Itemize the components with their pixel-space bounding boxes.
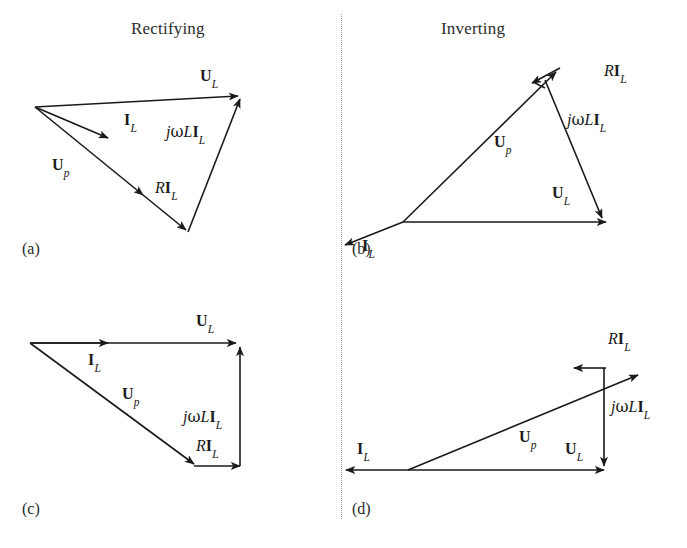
label-a-U-L: UL (200, 68, 218, 88)
label-b-U-L: UL (552, 185, 570, 205)
label-a-jwL-I-L: jωLIL (166, 124, 205, 144)
label-c-U-p: Up (122, 386, 139, 406)
vector-a-I-L (35, 107, 108, 138)
vector-a-jwL-I-L (188, 99, 240, 232)
label-b-I-L: IL (362, 238, 375, 258)
label-d-I-L: IL (357, 441, 370, 461)
label-b-jwL-I-L: jωLIL (567, 112, 606, 132)
vector-canvas (0, 0, 687, 548)
label-d-R-I-L: RIL (608, 331, 630, 351)
label-c-I-L: IL (88, 352, 101, 372)
label-c-R-I-L: RIL (196, 438, 218, 458)
label-a-U-p: Up (52, 157, 69, 177)
phasor-figure: Rectifying Inverting (a) (b) (c) (d) (0, 0, 687, 548)
label-a-I-L: IL (124, 112, 137, 132)
label-a-R-I-L: RIL (155, 180, 177, 200)
label-d-U-p: Up (519, 429, 536, 449)
label-c-jwL-I-L: jωLIL (183, 409, 222, 429)
label-d-U-L: UL (565, 441, 583, 461)
label-b-R-I-L: RIL (604, 63, 626, 83)
label-b-U-p: Up (494, 134, 511, 154)
vector-c-U-p (30, 343, 194, 464)
panel-b-vectors (345, 68, 606, 245)
label-c-U-L: UL (196, 313, 214, 333)
label-d-jwL-I-L: jωLIL (611, 399, 650, 419)
vector-b-U-p (403, 72, 556, 222)
panel-d-vectors (346, 368, 638, 470)
vector-a-U-L (35, 96, 238, 107)
